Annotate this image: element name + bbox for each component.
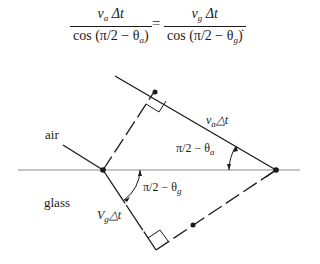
upper-wavefront-point <box>153 90 158 95</box>
va-dt: △t <box>216 113 228 127</box>
lower-wavefront-point <box>191 223 196 228</box>
right-angle-marker-air <box>146 101 166 112</box>
right-angle-marker-glass <box>148 230 168 241</box>
air-label: air <box>45 127 59 143</box>
angle-a-text: π/2 − θ <box>176 141 210 155</box>
angle-arrow-glass-top <box>138 170 142 176</box>
incident-ray <box>63 145 103 170</box>
angle-arc-glass <box>124 170 140 200</box>
vg-dt-label: Vg△t <box>97 208 121 224</box>
angle-arrow-air-bottom <box>227 164 231 170</box>
angle-g-label: π/2 − θg <box>143 180 181 196</box>
angle-a-label: π/2 − θa <box>176 141 214 157</box>
right-incidence-point <box>273 167 279 173</box>
glass-label: glass <box>44 195 70 211</box>
angle-g-sub: g <box>177 186 182 196</box>
angle-g-text: π/2 − θ <box>143 180 177 194</box>
va-dt-label: va△t <box>206 113 228 129</box>
left-incidence-point <box>100 167 106 173</box>
angle-a-sub: a <box>210 147 215 157</box>
vg-dt: △t <box>109 208 121 222</box>
